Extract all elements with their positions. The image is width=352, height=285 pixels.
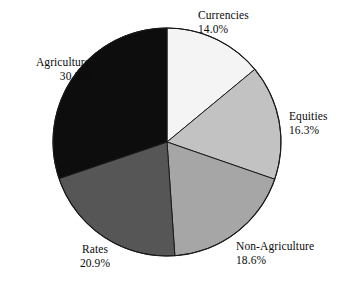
pie-label-non-agriculture: Non-Agriculture 18.6% (236, 240, 314, 267)
pie-label-equities-name: Equities (289, 110, 328, 124)
pie-label-rates-value: 20.9% (66, 257, 124, 271)
pie-label-currencies-value: 14.0% (198, 23, 249, 37)
pie-label-equities: Equities 16.3% (289, 110, 328, 137)
pie-label-rates-name: Rates (66, 243, 124, 257)
pie-label-currencies-name: Currencies (198, 9, 249, 23)
pie-label-non-agriculture-value: 18.6% (236, 254, 314, 268)
pie-label-currencies: Currencies 14.0% (198, 9, 249, 36)
pie-label-agriculture-value: 30.2% (12, 70, 90, 84)
pie-label-rates: Rates 20.9% (66, 243, 124, 270)
pie-label-non-agriculture-name: Non-Agriculture (236, 240, 314, 254)
pie-label-agriculture: Agriculture 30.2% (12, 56, 90, 83)
pie-label-equities-value: 16.3% (289, 124, 328, 138)
pie-label-agriculture-name: Agriculture (12, 56, 90, 70)
pie-chart: Currencies 14.0% Equities 16.3% Non-Agri… (0, 0, 352, 285)
